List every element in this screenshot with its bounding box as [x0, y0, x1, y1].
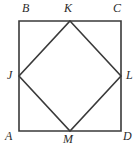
vertex-label-j: J: [7, 69, 12, 81]
outer-square-path: [19, 21, 121, 131]
vertex-label-d: D: [123, 130, 132, 142]
vertex-label-b: B: [22, 2, 29, 14]
vertex-label-k: K: [64, 2, 72, 14]
vertex-label-l: L: [126, 69, 133, 81]
vertex-label-c: C: [113, 2, 121, 14]
figure-canvas: [0, 0, 139, 150]
vertex-label-m: M: [63, 133, 73, 145]
geometry-figure: B K C J L A M D: [0, 0, 139, 150]
inner-square-path: [19, 21, 121, 131]
vertex-label-a: A: [5, 130, 12, 142]
